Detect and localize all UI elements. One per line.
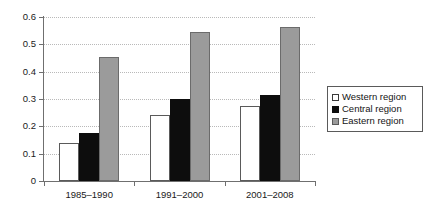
chart-legend: Western regionCentral regionEastern regi… — [327, 86, 423, 132]
x-tick-label: 2001–2008 — [225, 190, 315, 200]
legend-item-eastern[interactable]: Eastern region — [332, 115, 419, 127]
x-tick-mark — [225, 181, 226, 186]
y-tick-label: 0.3 — [0, 94, 36, 104]
eastern-swatch-icon — [332, 118, 339, 125]
y-tick-label: 0.6 — [0, 12, 36, 22]
x-tick-label: 1985–1990 — [44, 190, 134, 200]
legend-item-central[interactable]: Central region — [332, 103, 419, 115]
y-tick-label: 0.4 — [0, 67, 36, 77]
bar-western-1 — [150, 115, 170, 181]
y-tick-label: 0.5 — [0, 39, 36, 49]
western-swatch-icon — [332, 94, 339, 101]
central-swatch-icon — [332, 106, 339, 113]
bar-central-2 — [260, 95, 280, 181]
x-tick-label: 1991–2000 — [135, 190, 225, 200]
legend-item-label: Central region — [342, 104, 402, 114]
legend-item-western[interactable]: Western region — [332, 91, 419, 103]
y-tick-label: 0.1 — [0, 149, 36, 159]
bar-eastern-2 — [280, 27, 300, 181]
y-tick-label: 0 — [0, 176, 36, 186]
legend-item-label: Western region — [342, 92, 406, 102]
bar-western-0 — [59, 143, 79, 181]
plot-area — [44, 17, 315, 181]
bar-central-0 — [79, 133, 99, 181]
bar-western-2 — [240, 106, 260, 181]
x-tick-mark — [134, 181, 135, 186]
bar-eastern-1 — [190, 32, 210, 181]
x-tick-mark — [315, 181, 316, 186]
bar-eastern-0 — [99, 57, 119, 181]
bar-central-1 — [170, 99, 190, 181]
x-axis-line — [43, 181, 316, 182]
y-tick-label: 0.2 — [0, 121, 36, 131]
legend-item-label: Eastern region — [342, 116, 404, 126]
x-tick-mark — [44, 181, 45, 186]
